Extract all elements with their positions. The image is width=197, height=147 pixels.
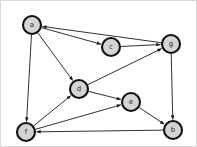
node-d[interactable]: d bbox=[70, 80, 88, 98]
node-circle-d[interactable] bbox=[70, 80, 88, 98]
edge-c-to-g bbox=[121, 45, 161, 47]
graph-canvas: acgdefb bbox=[1, 1, 197, 147]
edge-f-to-d bbox=[34, 96, 71, 126]
node-circle-b[interactable] bbox=[164, 121, 182, 139]
edge-d-to-g bbox=[88, 49, 162, 85]
edge-g-to-a bbox=[43, 26, 162, 42]
node-circle-e[interactable] bbox=[122, 93, 140, 111]
node-circle-c[interactable] bbox=[102, 38, 120, 56]
node-f[interactable]: f bbox=[17, 123, 35, 141]
edge-b-to-f bbox=[37, 130, 164, 132]
edge-f-to-e bbox=[35, 105, 120, 129]
edge-d-to-e bbox=[89, 91, 121, 99]
node-circle-g[interactable] bbox=[162, 35, 180, 53]
node-circle-f[interactable] bbox=[17, 123, 35, 141]
node-g[interactable]: g bbox=[162, 35, 180, 53]
edge-e-to-b bbox=[139, 107, 164, 124]
node-circle-a[interactable] bbox=[23, 16, 41, 34]
edge-a-to-f bbox=[27, 35, 32, 122]
edge-a-to-d bbox=[38, 33, 73, 81]
graph-figure: acgdefb bbox=[0, 0, 197, 147]
node-b[interactable]: b bbox=[164, 121, 182, 139]
edges-layer bbox=[27, 26, 173, 131]
node-a[interactable]: a bbox=[23, 16, 41, 34]
edge-g-to-b bbox=[171, 54, 173, 120]
node-c[interactable]: c bbox=[102, 38, 120, 56]
node-e[interactable]: e bbox=[122, 93, 140, 111]
